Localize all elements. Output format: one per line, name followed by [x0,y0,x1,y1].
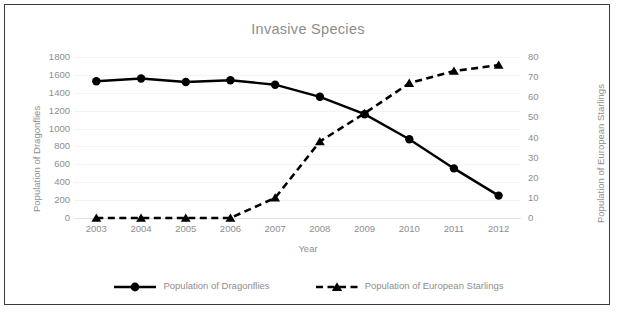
legend-item[interactable]: Population of European Starlings [314,279,504,291]
series-line-2 [96,65,498,218]
chart-area: Invasive Species 02004006008001000120014… [5,5,611,306]
data-point-marker [226,76,234,84]
data-point-marker [92,77,100,85]
series-layer [5,5,611,306]
legend-label: Population of European Starlings [365,280,504,291]
chart-frame: Invasive Species 02004006008001000120014… [4,4,610,305]
triangle-marker-icon [314,279,360,291]
data-point-marker [404,79,414,87]
legend-item[interactable]: Population of Dragonflies [112,279,269,291]
data-point-marker [137,74,145,82]
series-line-1 [96,79,498,196]
data-point-marker [405,135,413,143]
data-point-marker [182,78,190,86]
data-point-marker [494,191,502,199]
data-point-marker [449,66,459,74]
circle-marker-icon [112,279,158,291]
data-point-marker [450,164,458,172]
data-point-marker [316,93,324,101]
chart-legend: Population of DragonfliesPopulation of E… [5,279,611,291]
legend-label: Population of Dragonflies [163,280,269,291]
data-point-marker [271,81,279,89]
